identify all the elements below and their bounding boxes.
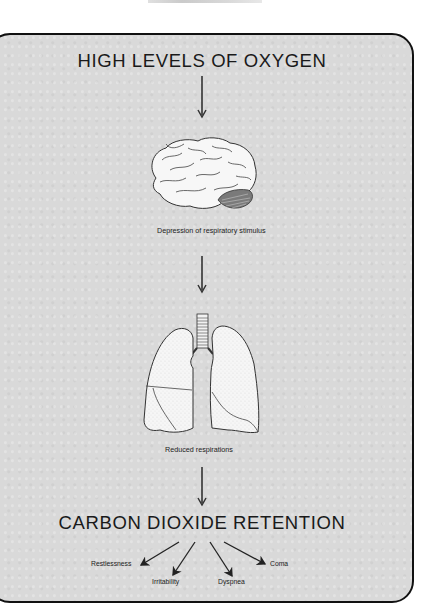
arrow-to-restlessness-icon [141, 542, 179, 565]
brain-icon [152, 138, 256, 209]
arrow-down-3-icon [198, 467, 206, 505]
title-carbon-dioxide-retention: CARBON DIOXIDE RETENTION [0, 512, 404, 534]
arrow-down-1-icon [198, 76, 206, 117]
arrow-to-dyspnea-icon [210, 542, 232, 576]
outcome-restlessness: Restlessness [91, 560, 131, 567]
caption-depression-respiratory-stimulus: Depression of respiratory stimulus [157, 226, 266, 235]
caption-reduced-respirations: Reduced respirations [165, 445, 233, 454]
outcome-dyspnea: Dyspnea [218, 578, 245, 585]
outcome-irritability: Irritability [152, 578, 179, 585]
outcome-coma: Coma [270, 560, 288, 567]
arrow-to-irritability-icon [173, 542, 195, 575]
arrow-to-coma-icon [224, 542, 265, 564]
arrow-down-2-icon [198, 256, 206, 292]
lungs-icon [144, 314, 259, 433]
